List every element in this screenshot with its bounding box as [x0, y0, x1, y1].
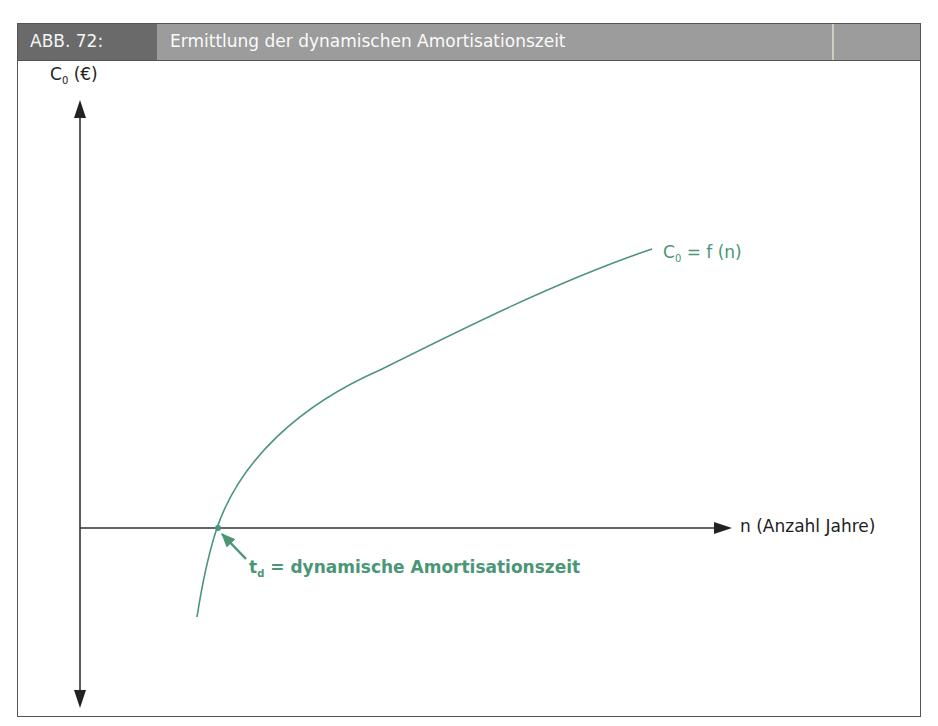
- x-axis: [80, 522, 732, 534]
- diagram-canvas: [0, 0, 938, 726]
- x-axis-label: n (Anzahl Jahre): [740, 516, 875, 536]
- x-axis-arrow-icon: [714, 522, 732, 534]
- curve-label: C0 = f (n): [663, 242, 742, 264]
- annotation-arrow-icon: [222, 534, 246, 559]
- y-axis: [74, 100, 86, 708]
- amortization-time-label: td = dynamische Amortisationszeit: [249, 557, 580, 579]
- intersection-point: [215, 525, 221, 531]
- y-axis-arrow-down-icon: [74, 690, 86, 708]
- y-axis-arrow-up-icon: [74, 100, 86, 118]
- y-axis-label: C0 (€): [50, 64, 98, 86]
